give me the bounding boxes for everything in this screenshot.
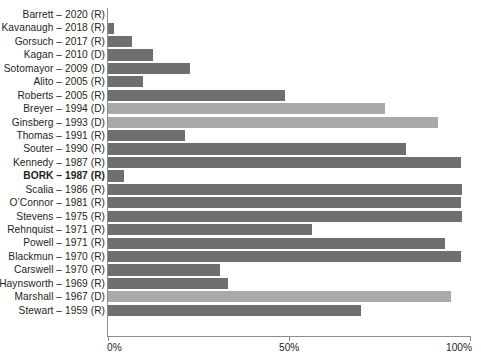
bar-track (108, 35, 470, 48)
bar-track (108, 102, 470, 115)
bar-track (108, 263, 470, 276)
row-label: Rehnquist – 1971 (R) (0, 223, 105, 236)
chart-row: Kennedy – 1987 (R) (0, 156, 481, 169)
x-axis-tick-label: 100% (446, 342, 472, 353)
chart-row: Carswell – 1970 (R) (0, 263, 481, 276)
chart-row: Roberts – 2005 (R) (0, 89, 481, 102)
bar-track (108, 223, 470, 236)
bar (108, 36, 132, 47)
chart-row: Kavanaugh – 2018 (R) (0, 21, 481, 34)
bar-track (108, 169, 470, 182)
bar-track (108, 290, 470, 303)
chart-row: Stewart – 1959 (R) (0, 304, 481, 317)
bar (108, 76, 143, 87)
x-axis-tick (470, 336, 471, 341)
chart-row: Marshall – 1967 (D) (0, 290, 481, 303)
row-label: Powell – 1971 (R) (0, 236, 105, 249)
chart-row: BORK – 1987 (R) (0, 169, 481, 182)
bar (108, 157, 461, 168)
row-label: Sotomayor – 2009 (D) (0, 62, 105, 75)
chart-row: Rehnquist – 1971 (R) (0, 223, 481, 236)
row-label: Thomas – 1991 (R) (0, 129, 105, 142)
row-label: Kavanaugh – 2018 (R) (0, 21, 105, 34)
bar (108, 238, 445, 249)
bar-track (108, 62, 470, 75)
bar (108, 278, 228, 289)
bar-track (108, 210, 470, 223)
bar (108, 130, 185, 141)
bar (108, 103, 385, 114)
row-label: Roberts – 2005 (R) (0, 89, 105, 102)
bar-track (108, 156, 470, 169)
bar (108, 143, 406, 154)
bar (108, 63, 190, 74)
row-label: Barrett – 2020 (R) (0, 8, 105, 21)
bar (108, 184, 462, 195)
chart-row: Scalia – 1986 (R) (0, 183, 481, 196)
row-label: Stewart – 1959 (R) (0, 304, 105, 317)
bar (108, 117, 438, 128)
bar (108, 224, 312, 235)
row-label: Kennedy – 1987 (R) (0, 156, 105, 169)
chart-row: Thomas – 1991 (R) (0, 129, 481, 142)
bar-track (108, 89, 470, 102)
row-label: Haynsworth – 1969 (R) (0, 277, 105, 290)
chart-row: Powell – 1971 (R) (0, 236, 481, 249)
row-label: Blackmun – 1970 (R) (0, 250, 105, 263)
row-label: BORK – 1987 (R) (0, 169, 105, 182)
bar (108, 49, 153, 60)
bar-track (108, 8, 470, 21)
bar (108, 90, 285, 101)
x-axis-tick (108, 336, 109, 341)
bar-chart: Barrett – 2020 (R)Kavanaugh – 2018 (R)Go… (0, 0, 481, 358)
row-label: Kagan – 2010 (D) (0, 48, 105, 61)
row-label: Breyer – 1994 (D) (0, 102, 105, 115)
bar-track (108, 304, 470, 317)
x-axis-tick-label: 50% (279, 342, 299, 353)
row-label: Ginsberg – 1993 (D) (0, 116, 105, 129)
row-label: Carswell – 1970 (R) (0, 263, 105, 276)
bar (108, 264, 220, 275)
chart-rows: Barrett – 2020 (R)Kavanaugh – 2018 (R)Go… (0, 8, 481, 317)
y-axis-line (107, 8, 108, 337)
bar (108, 170, 124, 181)
chart-row: Sotomayor – 2009 (D) (0, 62, 481, 75)
bar-track (108, 116, 470, 129)
bar-track (108, 250, 470, 263)
bar (108, 197, 461, 208)
row-label: Souter – 1990 (R) (0, 142, 105, 155)
bar-track (108, 236, 470, 249)
chart-row: Souter – 1990 (R) (0, 142, 481, 155)
bar (108, 23, 114, 34)
chart-row: Stevens – 1975 (R) (0, 210, 481, 223)
bar-track (108, 142, 470, 155)
chart-row: Haynsworth – 1969 (R) (0, 277, 481, 290)
bar (108, 305, 361, 316)
chart-row: Ginsberg – 1993 (D) (0, 116, 481, 129)
bar (108, 211, 462, 222)
chart-row: Alito – 2005 (R) (0, 75, 481, 88)
chart-row: Gorsuch – 2017 (R) (0, 35, 481, 48)
row-label: Scalia – 1986 (R) (0, 183, 105, 196)
bar (108, 291, 451, 302)
row-label: Gorsuch – 2017 (R) (0, 35, 105, 48)
row-label: Marshall – 1967 (D) (0, 290, 105, 303)
bar-track (108, 129, 470, 142)
bar (108, 251, 461, 262)
x-axis-tick-label: 0% (107, 342, 122, 353)
x-axis-tick (289, 336, 290, 341)
bar-track (108, 183, 470, 196)
bar-track (108, 196, 470, 209)
bar-track (108, 277, 470, 290)
chart-row: Kagan – 2010 (D) (0, 48, 481, 61)
chart-row: Barrett – 2020 (R) (0, 8, 481, 21)
bar-track (108, 75, 470, 88)
bar-track (108, 48, 470, 61)
chart-row: Breyer – 1994 (D) (0, 102, 481, 115)
chart-row: Blackmun – 1970 (R) (0, 250, 481, 263)
chart-row: O’Connor – 1981 (R) (0, 196, 481, 209)
row-label: Stevens – 1975 (R) (0, 210, 105, 223)
row-label: O’Connor – 1981 (R) (0, 196, 105, 209)
row-label: Alito – 2005 (R) (0, 75, 105, 88)
bar-track (108, 21, 470, 34)
